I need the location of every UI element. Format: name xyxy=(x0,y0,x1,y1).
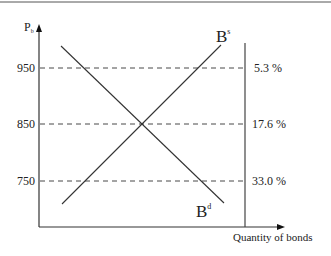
rate-label-33-0: 33.0 % xyxy=(252,174,286,188)
demand-curve-bd xyxy=(61,46,224,203)
y-tick-750: 750 xyxy=(17,174,35,188)
x-axis-arrow-icon xyxy=(277,224,285,230)
y-tick-950: 950 xyxy=(17,61,35,75)
demand-curve-label: Bd xyxy=(196,202,211,221)
y-axis-arrow-icon xyxy=(36,24,42,32)
y-tick-850: 850 xyxy=(17,117,35,131)
bond-market-chart: Pb 950 850 750 5.3 % 17.6 % 33.0 % Bs Bd… xyxy=(0,0,331,256)
rate-label-5-3: 5.3 % xyxy=(254,61,282,75)
supply-curve-label: Bs xyxy=(216,27,230,46)
supply-curve-bs xyxy=(62,45,221,204)
x-axis-label: Quantity of bonds xyxy=(233,231,312,243)
rate-label-17-6: 17.6 % xyxy=(252,117,286,131)
y-axis-label: Pb xyxy=(24,20,34,34)
